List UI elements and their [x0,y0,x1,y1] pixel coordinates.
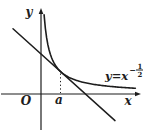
y-axis-label: y [26,6,33,18]
formula-exp-denominator: 2 [136,71,143,78]
origin-label: O [21,95,31,107]
plot-canvas [0,0,148,134]
formula-exp-sign: − [129,67,136,74]
formula-var-x: x [121,69,128,83]
tangent-abscissa-label: a [55,94,63,106]
formula-exp-fraction: 12 [136,63,143,78]
formula-exponent: −12 [129,63,143,78]
x-axis-label: x [124,95,131,107]
x-axis-arrow-icon [135,92,141,97]
formula-equals: = [112,69,122,83]
curve-formula-label: y=x−12 [105,70,143,85]
formula-var-y: y [105,69,112,83]
function-graph-figure: y x O a y=x−12 [0,0,148,134]
y-axis-arrow-icon [39,8,44,14]
